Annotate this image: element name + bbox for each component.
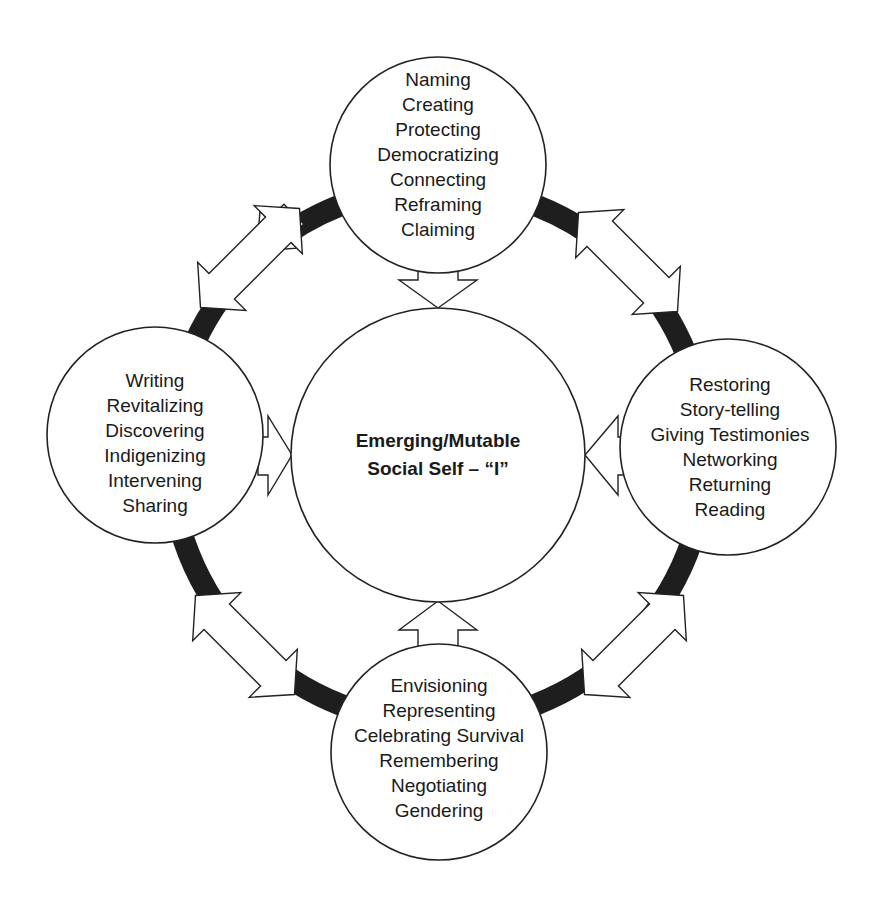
node-top-item: Reframing — [394, 194, 482, 215]
diagram-canvas: Emerging/Mutable Social Self – “I” Namin… — [0, 0, 876, 907]
node-bottom-item: Representing — [382, 700, 495, 721]
node-top-item: Democratizing — [377, 144, 498, 165]
node-top-item: Claiming — [401, 219, 475, 240]
node-top-item: Connecting — [390, 169, 486, 190]
double-arrow-top-left — [176, 184, 323, 331]
node-left-item: Indigenizing — [104, 445, 205, 466]
node-right-item: Returning — [689, 474, 771, 495]
node-top-item: Protecting — [395, 119, 481, 140]
node-left-item: Intervening — [108, 470, 202, 491]
node-left-item: Discovering — [105, 420, 204, 441]
node-bottom-item: Celebrating Survival — [354, 725, 524, 746]
double-arrow-bottom-right — [560, 571, 707, 718]
node-top-item: Creating — [402, 94, 474, 115]
node-top-item: Naming — [405, 69, 470, 90]
node-right-item: Restoring — [689, 374, 770, 395]
node-right-item: Networking — [682, 449, 777, 470]
node-bottom-item: Negotiating — [391, 775, 487, 796]
node-circle-right — [620, 339, 836, 555]
double-arrow-top-right — [554, 188, 701, 335]
double-arrow-bottom-left — [171, 571, 318, 718]
node-right-item: Story-telling — [680, 399, 780, 420]
arrow-bottom-to-center — [399, 601, 477, 648]
node-right-item: Giving Testimonies — [650, 424, 809, 445]
node-bottom-item: Envisioning — [390, 675, 487, 696]
node-bottom-item: Remembering — [379, 750, 498, 771]
node-left-item: Writing — [126, 370, 185, 391]
node-right-item: Reading — [695, 499, 766, 520]
center-label-line2: Social Self – “I” — [367, 458, 509, 479]
node-bottom-item: Gendering — [395, 800, 484, 821]
center-circle — [291, 308, 585, 602]
center-label-line1: Emerging/Mutable — [356, 430, 521, 451]
node-left-item: Sharing — [122, 495, 188, 516]
node-left-item: Revitalizing — [106, 395, 203, 416]
